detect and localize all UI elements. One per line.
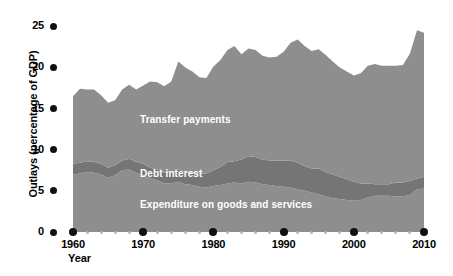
y-tick-dot [50,105,57,112]
plot-area [0,0,453,276]
y-tick-dot [50,64,57,71]
band-label-debt-interest: Debt interest [140,168,202,179]
y-axis-title: Outlays (percentage of GDP) [27,29,39,219]
x-tick-label: 1960 [50,238,96,250]
x-minor-tick-dot [114,231,117,234]
x-minor-tick-dot [310,231,313,234]
x-minor-tick-dot [338,231,341,234]
x-minor-tick-dot [170,231,173,234]
x-minor-tick-dot [128,231,131,234]
x-axis-title: Year [68,252,91,264]
x-tick-dot [69,228,77,236]
y-tick-label: 0 [18,225,44,237]
x-minor-tick-dot [226,231,229,234]
x-minor-tick-dot [268,231,271,234]
x-tick-label: 2000 [331,238,377,250]
x-minor-tick-dot [100,231,103,234]
x-minor-tick-dot [366,231,369,234]
x-minor-tick-dot [324,231,327,234]
x-tick-dot [350,228,358,236]
stacked-area-chart: 0510152025 196019701980199020002010 Outl… [0,0,453,276]
x-tick-dot [280,228,288,236]
x-minor-tick-dot [86,231,89,234]
x-minor-tick-dot [296,231,299,234]
x-tick-dot [420,228,428,236]
band-label-expenditure: Expenditure on goods and services [140,199,312,210]
y-tick-dot [50,23,57,30]
x-minor-tick-dot [156,231,159,234]
x-tick-label: 2010 [401,238,447,250]
y-tick-dot [50,229,57,236]
x-minor-tick-dot [184,231,187,234]
x-minor-tick-dot [240,231,243,234]
x-tick-label: 1990 [261,238,307,250]
band-label-transfer-payments: Transfer payments [140,114,231,125]
x-minor-tick-dot [198,231,201,234]
x-tick-label: 1980 [190,238,236,250]
x-minor-tick-dot [254,231,257,234]
x-tick-label: 1970 [120,238,166,250]
